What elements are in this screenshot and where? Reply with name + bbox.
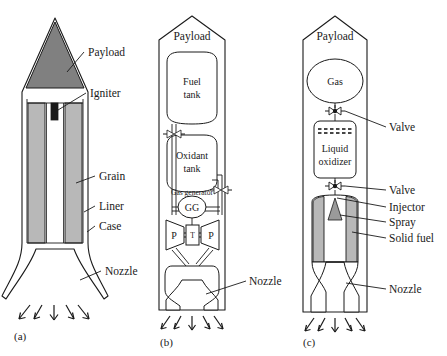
rocket-propulsion-figure: Payload Igniter Grain Liner Case Nozzle … (0, 0, 447, 356)
rocket-a-igniter (51, 103, 58, 120)
rocket-a-payload-cone (26, 22, 84, 88)
label-a-liner: Liner (99, 200, 124, 212)
panel-b-liquid-rocket: Fuel tank Oxidant tank GG (159, 16, 282, 349)
label-c-oxidizer-line1: Liquid (322, 143, 349, 154)
rocket-a-grain-right (65, 103, 82, 243)
label-b-gg-symbol: GG (185, 202, 199, 213)
label-a-grain: Grain (99, 170, 125, 182)
label-a-payload: Payload (88, 46, 125, 59)
label-b-fuel-tank-line2: tank (183, 89, 200, 100)
label-c-valve-upper: Valve (389, 121, 415, 133)
label-a-case: Case (99, 220, 121, 232)
label-b-fuel-tank-line1: Fuel (183, 76, 201, 87)
label-b-payload: Payload (173, 30, 210, 43)
label-b-oxidant-tank-line1: Oxidant (176, 150, 208, 161)
label-c-oxidizer-line2: oxidizer (319, 156, 352, 167)
rocket-b-fuel-tank (167, 52, 217, 124)
rocket-a-exhaust-arrows (19, 305, 89, 320)
label-b-turbine-symbol: T (190, 231, 195, 240)
label-c-solid-fuel: Solid fuel (389, 232, 434, 244)
label-b-pump-left-symbol: P (171, 230, 177, 241)
label-b-gas-generator: Gas generator (171, 188, 213, 197)
label-a-nozzle: Nozzle (105, 265, 138, 277)
rocket-b-exhaust-arrows (161, 316, 223, 330)
panel-c-hybrid-rocket: Gas Liquid (303, 16, 434, 349)
label-c-nozzle: Nozzle (389, 283, 422, 295)
label-c-spray: Spray (389, 216, 416, 229)
label-b-oxidant-tank-line2: tank (183, 163, 200, 174)
rocket-c-solid-fuel-left (313, 197, 324, 263)
label-c-gas-tank: Gas (327, 76, 343, 87)
label-c-valve-lower: Valve (389, 184, 415, 196)
caption-a: (a) (14, 330, 27, 343)
label-c-payload: Payload (316, 30, 353, 43)
caption-c: (c) (303, 336, 316, 349)
label-b-nozzle: Nozzle (249, 275, 282, 287)
rocket-c-exhaust-arrows (305, 318, 365, 332)
panel-a-solid-rocket: Payload Igniter Grain Liner Case Nozzle … (2, 18, 138, 343)
caption-b: (b) (160, 336, 173, 349)
rocket-a-grain-left (28, 103, 45, 243)
label-c-injector: Injector (389, 201, 425, 214)
rocket-c-solid-fuel-right (346, 197, 357, 263)
label-b-pump-right-symbol: P (208, 230, 214, 241)
label-a-igniter: Igniter (90, 87, 121, 100)
